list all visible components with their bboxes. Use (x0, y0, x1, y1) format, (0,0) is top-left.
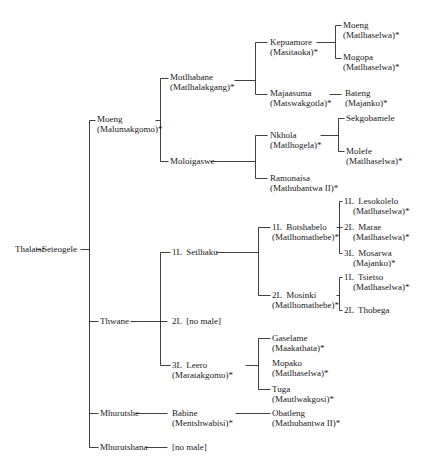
person-node-setlhaku: 1L Setlhaku (172, 247, 218, 257)
person-name: 3L Mosarwa (344, 248, 392, 258)
person-mother-name: (Mathubantwa II)* (272, 418, 340, 428)
person-node-mogopa: Mogopa(Matlhaselwa)* (343, 52, 399, 72)
person-node-obatleng: Obatleng(Mathubantwa II)* (272, 408, 340, 428)
person-node-tsietso: 1L Tsietso (Matlhaselwa)* (344, 272, 409, 292)
person-node-nkhola: Nkhola(Matlhogela)* (270, 130, 321, 150)
person-node-nomale2: [no male] (172, 442, 207, 452)
person-mother-name: (Masitaoka)* (270, 47, 318, 57)
person-mother-name: (Matlhalakgang)* (170, 82, 234, 92)
person-node-moloigaswe: Moloigaswe (170, 156, 215, 166)
person-name: Kepuamore (270, 37, 312, 47)
person-mother-name: (Matlhaselwa)* (343, 30, 399, 40)
person-mother-name: (Maratakgomo)* (172, 370, 233, 380)
person-name: Mogopa (343, 52, 373, 62)
person-name: 1L Setlhaku (172, 247, 218, 257)
person-node-kepuamore: Kepuamore(Masitaoka)* (270, 37, 318, 57)
person-name: 3L Leero (172, 360, 207, 370)
person-node-mosarwa: 3L Mosarwa (Majanko)* (344, 248, 396, 268)
person-mother-name: (Matlhaselwa)* (346, 156, 402, 166)
person-mother-name: (Matlhaselwa)* (344, 282, 409, 292)
person-name: Motlhabane (170, 72, 213, 82)
person-node-seteogele: Seteogele (42, 244, 77, 254)
person-node-mopako: Mopako(Matlhaselwa)* (272, 358, 328, 378)
person-node-ramonaisa: Ramonaisa(Mathubantwa II)* (270, 173, 338, 193)
person-node-tuga: Tuga(Mautlwakgosi)* (272, 384, 334, 404)
person-name: Bateng (345, 88, 371, 98)
person-node-mosinki: 2L Mosinki(Matlhomathebe)* (272, 290, 339, 310)
person-name: 2L Thobega (344, 305, 390, 315)
person-name: Moeng (343, 20, 369, 30)
person-mother-name: (Matlhomathebe)* (272, 232, 339, 242)
person-name: Obatleng (272, 408, 305, 418)
person-node-babine: Babine(Mentshwabisi)* (172, 408, 233, 428)
person-name: Gaselame (272, 333, 307, 343)
person-name: Seteogele (42, 244, 77, 254)
person-node-leero: 3L Leero(Maratakgomo)* (172, 360, 233, 380)
person-node-bateng: Bateng(Majanko)* (345, 88, 388, 108)
person-node-thalatsi: Thalatsi (15, 244, 44, 254)
person-name: Majaasuma (270, 88, 311, 98)
person-name: 2L Mosinki (272, 290, 316, 300)
person-name: Moeng (97, 114, 123, 124)
person-name: Moloigaswe (170, 156, 215, 166)
person-node-twol-nomale: 2L [no male] (172, 316, 221, 326)
person-node-sekgobamele: Sekgobamele (346, 113, 395, 123)
person-mother-name: (Matlhomathebe)* (272, 300, 339, 310)
person-node-majaasuma: Majaasuma(Matswakgotla)* (270, 88, 331, 108)
person-name: Ramonaisa (270, 173, 310, 183)
person-node-thobega: 2L Thobega (344, 305, 390, 315)
person-mother-name: (Mathubantwa II)* (270, 183, 338, 193)
person-name: 1L Tsietso (344, 272, 383, 282)
person-name: Tuga (272, 384, 290, 394)
person-mother-name: (Matswakgotla)* (270, 98, 331, 108)
genealogy-diagram: ThalatsiSeteogeleMoeng(Malumakgomo)*Thwa… (0, 0, 425, 466)
person-name: Molefe (346, 146, 372, 156)
person-name: [no male] (172, 442, 207, 452)
person-name: Mopako (272, 358, 302, 368)
person-name: 2L [no male] (172, 316, 221, 326)
person-name: Thwane (100, 316, 129, 326)
person-name: 1L Lesokolelo (344, 196, 398, 206)
person-mother-name: (Mentshwabisi)* (172, 418, 233, 428)
person-node-moeng2: Moeng(Matlhaselwa)* (343, 20, 399, 40)
person-mother-name: (Matlhaselwa)* (344, 206, 409, 216)
person-node-mhurutshana: Mhurutshana (100, 442, 148, 452)
person-mother-name: (Matlhogela)* (270, 140, 321, 150)
person-name: 1L Botshabelo (272, 222, 327, 232)
person-name: Nkhola (270, 130, 297, 140)
person-name: Mhurutshe (100, 408, 139, 418)
person-mother-name: (Maakathata)* (272, 343, 324, 353)
person-mother-name: (Mautlwakgosi)* (272, 394, 334, 404)
person-name: Sekgobamele (346, 113, 395, 123)
person-mother-name: (Matlhaselwa)* (343, 62, 399, 72)
person-node-moeng1: Moeng(Malumakgomo)* (97, 114, 163, 134)
person-node-mhurutshe: Mhurutshe (100, 408, 139, 418)
person-name: 2L Marae (344, 222, 381, 232)
person-mother-name: (Majanko)* (344, 258, 396, 268)
person-node-lesokolelo: 1L Lesokolelo (Matlhaselwa)* (344, 196, 409, 216)
person-mother-name: (Majanko)* (345, 98, 388, 108)
person-name: Thalatsi (15, 244, 44, 254)
person-node-molefe: Molefe(Matlhaselwa)* (346, 146, 402, 166)
person-name: Babine (172, 408, 198, 418)
person-mother-name: (Matlhaselwa)* (344, 232, 409, 242)
person-node-marae: 2L Marae (Matlhaselwa)* (344, 222, 409, 242)
person-mother-name: (Malumakgomo)* (97, 124, 163, 134)
person-node-gaselame: Gaselame(Maakathata)* (272, 333, 324, 353)
person-node-botshabelo: 1L Botshabelo(Matlhomathebe)* (272, 222, 339, 242)
person-name: Mhurutshana (100, 442, 148, 452)
person-node-motlhabane: Motlhabane(Matlhalakgang)* (170, 72, 234, 92)
person-mother-name: (Matlhaselwa)* (272, 368, 328, 378)
person-node-thwane: Thwane (100, 316, 129, 326)
